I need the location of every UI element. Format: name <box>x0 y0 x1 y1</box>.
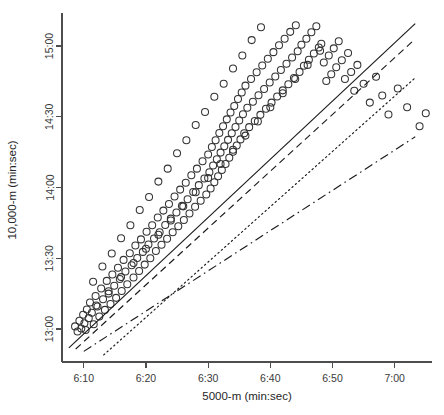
data-point <box>257 24 264 31</box>
data-point <box>341 76 348 83</box>
x-tick-label: 6:10 <box>74 372 95 384</box>
data-point <box>211 93 218 100</box>
data-point <box>338 57 345 64</box>
data-point <box>213 156 220 163</box>
data-point <box>83 306 90 313</box>
data-point <box>220 80 227 87</box>
data-point <box>236 117 243 124</box>
data-point <box>164 235 171 242</box>
data-point <box>141 261 148 268</box>
data-point <box>173 209 180 216</box>
data-point <box>186 210 193 217</box>
data-point <box>234 96 241 103</box>
data-point <box>253 69 260 76</box>
data-point <box>174 150 181 157</box>
data-point <box>127 222 134 229</box>
data-point <box>217 149 224 156</box>
data-point <box>261 85 268 92</box>
data-point <box>354 61 361 68</box>
data-point <box>136 267 143 274</box>
data-point <box>308 29 315 36</box>
data-point <box>348 68 355 75</box>
data-point <box>180 217 187 224</box>
data-point <box>175 223 182 230</box>
data-point <box>203 191 210 198</box>
axes-layer <box>62 13 432 362</box>
data-point <box>158 241 165 248</box>
data-point <box>120 256 127 263</box>
data-point <box>184 196 191 203</box>
data-point <box>296 68 303 75</box>
data-point <box>220 123 227 130</box>
data-point <box>298 41 305 48</box>
data-point <box>294 48 301 55</box>
data-point <box>223 116 230 123</box>
data-point <box>192 122 199 129</box>
data-point <box>160 207 167 214</box>
plot-canvas: 6:106:206:306:406:507:0013:0013:3014:001… <box>0 0 444 415</box>
data-point <box>212 137 219 144</box>
data-point <box>283 60 290 67</box>
dashdot-fit <box>84 137 415 352</box>
x-tick-label: 6:40 <box>260 372 281 384</box>
data-point <box>276 42 283 49</box>
data-point <box>143 228 150 235</box>
data-point <box>287 28 294 35</box>
y-axis-title: 10,000-m (min:sec) <box>6 140 18 239</box>
data-point <box>99 263 106 270</box>
data-point <box>264 55 271 62</box>
data-point <box>136 206 143 213</box>
data-point <box>111 282 118 289</box>
data-point <box>230 65 237 72</box>
data-point <box>249 98 256 105</box>
data-point <box>320 59 327 66</box>
data-point <box>98 285 105 292</box>
data-point <box>109 271 116 278</box>
data-point <box>232 123 239 130</box>
data-point <box>113 294 120 301</box>
data-point <box>281 35 288 42</box>
data-point <box>270 49 277 56</box>
data-point <box>118 274 125 281</box>
data-point <box>416 123 423 130</box>
y-tick-label: 14:30 <box>44 103 56 129</box>
data-point <box>242 132 249 139</box>
scatter-plot-figure: 6:106:206:306:406:507:0013:0013:3014:001… <box>0 0 444 415</box>
data-point <box>228 130 235 137</box>
data-point <box>238 89 245 96</box>
data-point <box>267 104 274 111</box>
data-point <box>197 197 204 204</box>
data-point <box>272 73 279 80</box>
data-point <box>155 178 162 185</box>
dashed-fit <box>76 39 416 349</box>
data-point <box>202 109 209 116</box>
data-point <box>208 143 215 150</box>
fit-lines-layer <box>69 24 415 355</box>
data-point <box>90 278 97 285</box>
data-point <box>151 235 158 242</box>
data-point <box>242 82 249 89</box>
data-point <box>92 292 99 299</box>
data-point <box>257 111 264 118</box>
solid-fit <box>69 24 415 348</box>
data-point <box>323 77 330 84</box>
data-point <box>292 22 299 29</box>
data-point <box>422 110 429 117</box>
data-point <box>330 45 337 52</box>
data-point <box>165 201 172 208</box>
data-point <box>333 64 340 71</box>
data-point <box>130 274 137 281</box>
data-point <box>199 158 206 165</box>
dotted-fit <box>104 78 416 355</box>
data-point <box>124 281 131 288</box>
y-tick-label: 15:00 <box>44 33 56 59</box>
data-point <box>147 255 154 262</box>
y-tick-label: 13:00 <box>44 316 56 342</box>
data-point <box>351 87 358 94</box>
data-point <box>259 62 266 69</box>
data-point <box>152 247 159 254</box>
data-point <box>385 111 392 118</box>
data-point <box>404 104 411 111</box>
data-point <box>255 92 262 99</box>
data-point <box>155 231 162 238</box>
